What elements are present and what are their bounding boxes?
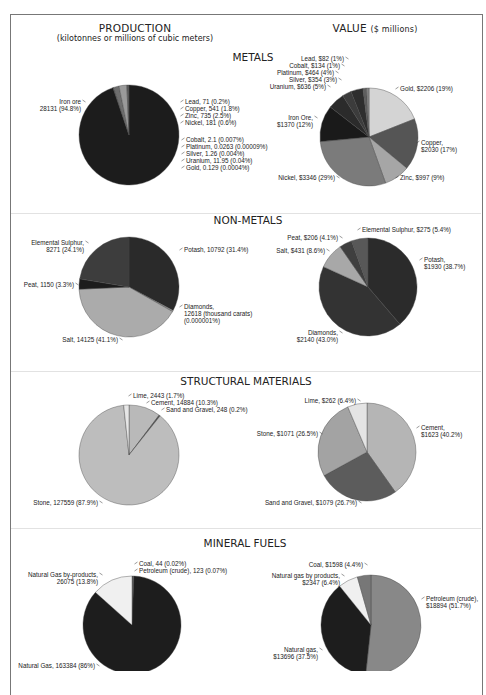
slice-label: Diamonds,12618 (thousand carats)(0.00000… [184, 303, 252, 325]
slice-label: Natural Gas, 163384 (86%) [18, 662, 95, 670]
leader-line [365, 563, 368, 565]
slice-label: Zinc, $997 (9%) [400, 174, 444, 182]
non-metals-production-pie: Elemental Sulphur,8271 (24.1%)Potash, 10… [24, 237, 253, 344]
slice-label: Coal, $1598 (4.4%) [309, 561, 363, 569]
leader-line [181, 114, 184, 116]
leader-line [182, 152, 185, 154]
leader-line [180, 305, 183, 307]
metals-value-pie: Lead, $82 (1%)Cobalt, $134 (1%)Platinum,… [270, 55, 457, 186]
leader-line [315, 116, 318, 118]
leader-line [135, 562, 138, 564]
leader-line [417, 426, 420, 428]
slice-label: Peat, 1150 (3.3%) [24, 281, 74, 289]
slice-label: Stone, $1071 (26.5%) [257, 430, 318, 438]
fuels-value-pie: Coal, $1598 (4.4%)Natural gas by product… [272, 561, 479, 671]
leader-line [135, 569, 138, 571]
slice-label: Potash, 10792 (31.4%) [184, 246, 248, 254]
slice-label: Natural gas by products,$2347 (6.4%) [272, 572, 341, 587]
leader-line [181, 100, 184, 102]
leader-line [97, 664, 100, 666]
slice-label: Stone, 127559 (87.9%) [33, 499, 98, 507]
leader-line [346, 57, 349, 59]
leader-line [120, 338, 123, 340]
leader-line [339, 78, 342, 80]
leader-line [182, 159, 185, 161]
slice-label: Peat, $206 (4.1%) [287, 234, 338, 242]
leader-line [129, 394, 132, 396]
leader-line [100, 501, 103, 503]
leader-line [182, 138, 185, 140]
leader-line [422, 597, 425, 599]
pie-slice [366, 575, 421, 671]
leader-line [100, 573, 103, 575]
slice-label: Lime, $262 (6.4%) [305, 397, 356, 405]
leader-line [86, 241, 89, 243]
slice-label: Petroleum (crude),$18894 (51.7%) [426, 595, 478, 610]
leader-line [337, 176, 340, 178]
leader-line [181, 121, 184, 123]
leader-line [83, 100, 86, 102]
leader-line [181, 107, 184, 109]
slice-label: Elemental Sulphur,8271 (24.1%) [31, 239, 84, 254]
leader-line [328, 85, 331, 87]
pie-slice [80, 237, 129, 287]
leader-line [396, 87, 399, 89]
leader-line [182, 145, 185, 147]
slice-label: Sand and Gravel, 248 (0.2%) [166, 406, 248, 414]
leader-line [320, 648, 323, 650]
slice-label: Nickel, $3346 (29%) [278, 174, 335, 182]
metals-production-pie: Iron ore28131 (94.8%)Lead, 71 (0.2%)Copp… [40, 85, 268, 185]
leader-line [420, 258, 423, 260]
structural-production-pie: Lime, 2443 (1.7%)Cement, 14884 (10.3%)Sa… [33, 392, 247, 507]
leader-line [340, 331, 343, 333]
slice-label: Gold, $2206 (19%) [400, 85, 453, 93]
slice-label: Iron ore28131 (94.8%) [40, 98, 82, 113]
leader-line [340, 236, 343, 238]
leader-line [76, 283, 79, 285]
slice-label: Potash,$1930 (38.7%) [424, 256, 465, 271]
fuels-production-pie: Coal, 44 (0.02%)Petroleum (crude), 123 (… [18, 560, 227, 671]
slice-label: Salt, 14125 (41.1%) [62, 336, 118, 344]
non-metals-value-pie: Peat, $206 (4.1%)Elemental Sulphur, $275… [276, 226, 465, 344]
slice-label: Salt, $431 (8.6%) [276, 247, 325, 255]
slice-label: Sand and Gravel, $1079 (26.7%) [265, 499, 357, 507]
leader-line [359, 501, 362, 503]
slice-label: Gold, 0.129 (0.0004%) [186, 164, 249, 172]
leader-line [358, 228, 361, 230]
slice-label: Diamonds,$2140 (43.0%) [297, 329, 339, 344]
leader-line [162, 408, 165, 410]
slice-label: Iron Ore,$1370 (12%) [277, 114, 313, 129]
slice-label: Uranium, $636 (5%) [270, 83, 326, 91]
leader-line [147, 401, 150, 403]
slice-label: Petroleum (crude), 123 (0.07%) [139, 567, 227, 575]
slice-label: Natural gas,$13696 (37.5%) [273, 646, 318, 661]
slice-label: Copper,$2030 (17%) [421, 139, 457, 154]
leader-line [182, 166, 185, 168]
leader-line [342, 574, 345, 576]
slice-label: Natural Gas by-products,26075 (13.8%) [28, 571, 98, 586]
leader-line [358, 399, 361, 401]
slice-label: Cement,$1623 (40.2%) [421, 424, 462, 439]
leader-line [327, 249, 330, 251]
leader-line [180, 248, 183, 250]
leader-line [336, 71, 339, 73]
leader-line [342, 64, 345, 66]
slice-label: Nickel, 181 (0.6%) [185, 119, 236, 127]
structural-value-pie: Lime, $262 (6.4%)Cement,$1623 (40.2%)Sto… [257, 397, 463, 507]
slice-label: Elemental Sulphur, $275 (5.4%) [362, 226, 451, 234]
